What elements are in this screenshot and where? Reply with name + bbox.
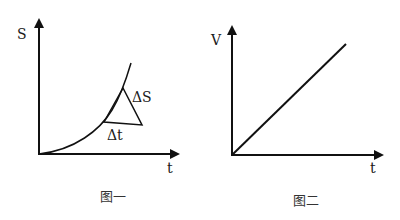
y-axis-label: V (210, 32, 222, 48)
y-axis-label: S (17, 26, 27, 42)
delta-t-label: Δt (107, 127, 123, 143)
figure-1: S t ΔS Δt 图一 (17, 20, 178, 204)
figure-caption: 图一 (100, 189, 126, 204)
figure-caption: 图二 (293, 193, 319, 208)
delta-s-label: ΔS (132, 89, 152, 105)
x-axis-label: t (167, 160, 173, 176)
x-axis-label: t (370, 160, 376, 176)
v-t-line (232, 44, 346, 155)
figure-2: V t 图二 (210, 27, 382, 208)
diagram-canvas: S t ΔS Δt 图一 V t 图二 (0, 0, 400, 220)
